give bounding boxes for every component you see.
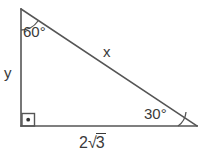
geometry-diagram: 60° 30° y x 2√3 [0,0,207,160]
radicand-value: 3 [96,133,106,151]
angle-label-top-vertex: 60° [23,24,46,39]
base-coefficient: 2 [79,134,88,151]
side-label-hypotenuse: x [103,44,111,59]
side-label-vertical-leg: y [4,65,12,80]
radical-expression: √3 [88,133,106,151]
side-label-base: 2√3 [79,133,106,151]
right-angle-dot-icon [26,118,30,122]
triangle-side-hypotenuse [21,9,197,126]
angle-label-bottom-right-vertex: 30° [144,106,167,121]
